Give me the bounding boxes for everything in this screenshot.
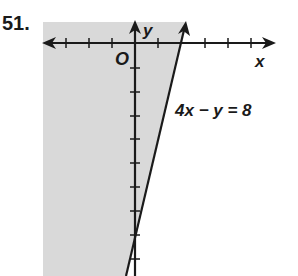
graph: y x O 4x − y = 8 (0, 0, 298, 276)
origin-label: O (115, 49, 129, 69)
x-axis-label: x (254, 52, 266, 71)
y-axis-label: y (142, 21, 154, 40)
equation-label: 4x − y = 8 (174, 101, 252, 120)
